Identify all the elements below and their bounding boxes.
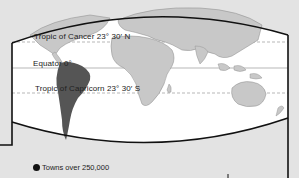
australia xyxy=(232,82,266,107)
legend-label: Towns over 250,000 xyxy=(42,163,109,172)
equator-label: Equator 0° xyxy=(33,59,72,68)
map-left-border xyxy=(0,43,12,145)
legend: Towns over 250,000 xyxy=(33,163,109,172)
filled-circle-icon xyxy=(33,164,40,171)
tropic-of-cancer-label: Tropic of Cancer 23° 30′ N xyxy=(34,32,130,41)
tropic-of-capricorn-label: Tropic of Capricorn 23° 30′ S xyxy=(35,84,140,93)
